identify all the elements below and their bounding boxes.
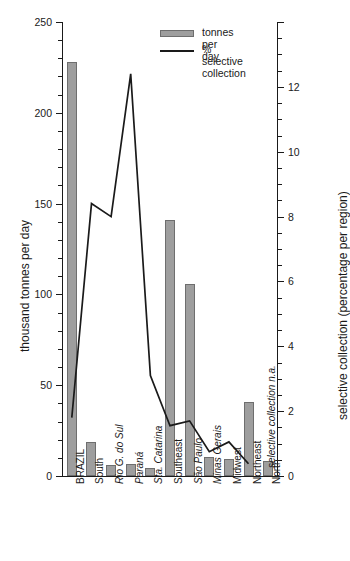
plot-area: [62, 22, 278, 476]
right-axis-major-tick: [278, 346, 284, 347]
right-axis-minor-tick: [278, 265, 282, 266]
right-axis-title: selective collection (percentage per reg…: [336, 191, 350, 420]
right-axis-minor-tick: [278, 395, 282, 396]
right-axis-major-tick: [278, 281, 284, 282]
x-axis-tick-label: Southeast: [174, 439, 184, 484]
selective-collection-line: [72, 74, 249, 464]
right-axis-major-tick: [278, 22, 284, 23]
left-axis-title: thousand tonnes per day: [18, 220, 32, 352]
right-axis-minor-tick: [278, 379, 282, 380]
right-axis-minor-tick: [278, 54, 282, 55]
left-axis-tick-label: 150: [10, 199, 52, 210]
right-axis-tick-label: 8: [288, 212, 294, 223]
left-axis-major-tick: [56, 476, 62, 477]
x-axis-tick-label: Rio G. do Sul: [115, 425, 125, 484]
left-axis-tick-label: 200: [10, 108, 52, 119]
right-axis-major-tick: [278, 152, 284, 153]
right-axis-minor-tick: [278, 38, 282, 39]
line-series: [62, 22, 278, 476]
right-axis-tick-label: 0: [288, 471, 294, 482]
x-axis-tick-label: Midwest: [233, 447, 243, 484]
right-axis-minor-tick: [278, 200, 282, 201]
x-axis-tick-label: Northeast: [253, 441, 263, 484]
right-axis-minor-tick: [278, 184, 282, 185]
right-axis-tick-label: 4: [288, 341, 294, 352]
right-axis-minor-tick: [278, 119, 282, 120]
right-axis-tick-label: 2: [288, 406, 294, 417]
right-axis-minor-tick: [278, 233, 282, 234]
x-axis-tick-label: Minas Gerais: [213, 425, 223, 484]
x-axis-tick-label: São Paulo: [194, 438, 204, 484]
left-axis-tick-label: 250: [10, 17, 52, 28]
x-axis-tick-label: South: [95, 458, 105, 484]
right-axis-minor-tick: [278, 330, 282, 331]
right-axis-minor-tick: [278, 314, 282, 315]
right-axis-minor-tick: [278, 427, 282, 428]
left-axis-tick-label: 50: [10, 380, 52, 391]
x-axis-tick-label: Paraná: [135, 452, 145, 484]
right-axis-minor-tick: [278, 103, 282, 104]
right-axis-minor-tick: [278, 168, 282, 169]
bar-swatch-icon: [160, 30, 194, 37]
right-axis-major-tick: [278, 217, 284, 218]
x-axis-tick-label: Sta. Catarina: [154, 426, 164, 484]
right-axis-minor-tick: [278, 71, 282, 72]
right-axis-minor-tick: [278, 298, 282, 299]
right-axis-tick-label: 12: [288, 82, 300, 93]
right-axis-minor-tick: [278, 249, 282, 250]
right-axis-tick-label: 10: [288, 147, 300, 158]
right-axis-minor-tick: [278, 444, 282, 445]
legend-label-selective: % selective collection: [202, 43, 246, 79]
right-axis-major-tick: [278, 411, 284, 412]
right-axis-minor-tick: [278, 136, 282, 137]
right-axis-minor-tick: [278, 363, 282, 364]
right-axis-tick-label: 6: [288, 276, 294, 287]
line-swatch-icon: [160, 50, 194, 52]
left-axis-tick-label: 0: [10, 471, 52, 482]
na-annotation: selective collection n.a.: [266, 365, 277, 468]
x-axis-tick-label: BRAZIL: [76, 449, 86, 484]
right-axis-major-tick: [278, 87, 284, 88]
